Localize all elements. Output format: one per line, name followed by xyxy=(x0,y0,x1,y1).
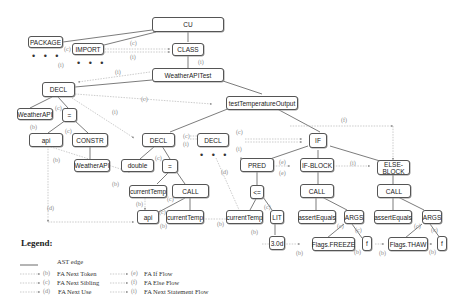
legend-key-d: (d) xyxy=(43,288,50,294)
node-f: f xyxy=(362,236,372,251)
node-currenttemp: currentTemp xyxy=(129,185,167,198)
node-decl: DECL xyxy=(142,133,175,147)
node-assertequals: assertEquals xyxy=(374,210,412,224)
else-line-1: ELSE- xyxy=(384,161,403,168)
legend-key-i: (i) xyxy=(131,288,137,294)
node-assign: = xyxy=(162,159,178,173)
edge-label-b: (b) xyxy=(160,223,167,229)
node-if: IF xyxy=(309,133,327,148)
node-call: CALL xyxy=(172,184,209,198)
legend-key-c: (c) xyxy=(43,279,50,285)
edge-label-d: (d) xyxy=(47,205,54,211)
node-import: IMPORT xyxy=(72,43,104,55)
edge-label-b: (b) xyxy=(251,229,258,235)
node-decl: DECL xyxy=(42,82,75,97)
edge-label-c: (c) xyxy=(431,227,438,233)
edge-label-i: (i) xyxy=(236,146,242,152)
edge-label-c: (c) xyxy=(264,204,271,210)
edge-label-c: (c) xyxy=(65,128,72,134)
edge-label-d: (d) xyxy=(221,169,228,175)
node-api: api xyxy=(137,210,159,224)
edge-label-c: (c) xyxy=(130,40,137,46)
edge-label-b: (b) xyxy=(53,157,60,163)
node-constr: CONSTR xyxy=(72,133,108,147)
edge-label-c: (c) xyxy=(355,227,362,233)
node-call: CALL xyxy=(377,184,411,198)
edge-label-c: (c) xyxy=(167,196,174,202)
ellipsis: • • • xyxy=(200,150,229,160)
edge-label-b: (b) xyxy=(217,221,224,227)
else-line-2: BLOCK xyxy=(382,168,404,175)
edge-label-i: (i) xyxy=(198,59,204,65)
node-args: ARGS xyxy=(422,210,442,224)
node-double: double xyxy=(121,159,154,172)
node-cu: CU xyxy=(152,17,224,32)
node-weatherapi: WeatherAPI xyxy=(17,108,53,120)
edge-label-i: (i) xyxy=(130,54,136,60)
edge-label-b: (b) xyxy=(429,249,436,255)
legend-key-e: (e) xyxy=(131,270,138,276)
edge-label-i: (i) xyxy=(350,160,356,166)
edge-label-e: (e) xyxy=(279,159,286,165)
edge-label-i: (i) xyxy=(112,109,118,115)
edge-label-c: (c) xyxy=(55,105,62,111)
edge-label-c: (c) xyxy=(183,133,190,139)
node-currenttemp: currentTemp xyxy=(226,210,263,224)
node-flags-freeze: Flags.FREEZE xyxy=(312,237,355,251)
legend-if-flow: FA If Flow xyxy=(144,270,172,277)
node-testtemperatureoutput: testTemperatureOutput xyxy=(226,96,298,110)
node-currenttemp: currentTemp xyxy=(166,210,204,224)
node-f: f xyxy=(437,236,447,251)
node-package: PACKAGE xyxy=(28,36,63,48)
node-weatherapitest: WeatherAPITest xyxy=(152,68,224,82)
node-else-block: ELSE- BLOCK xyxy=(377,160,410,175)
edge-label-c: (c) xyxy=(337,223,344,229)
node-if-block: IF-BLOCK xyxy=(300,158,334,172)
node-call: CALL xyxy=(300,184,334,198)
ellipsis: • • • xyxy=(32,51,61,61)
legend-next-sibling: FA Next Sibling xyxy=(57,279,99,286)
node-decl: DECL xyxy=(197,133,229,147)
node-weatherapi: WeatherAPI xyxy=(74,159,110,172)
legend-key-f: (f) xyxy=(131,279,137,285)
edge-label-c: (c) xyxy=(64,46,71,52)
node-less-equal: <= xyxy=(250,185,264,199)
node-pred: PRED xyxy=(240,158,274,172)
node-api: api xyxy=(29,133,63,147)
legend-swatches xyxy=(20,238,260,298)
ellipsis: • • • xyxy=(77,58,106,68)
edge-label-f: (f) xyxy=(341,117,347,123)
edge-label-c: (c) xyxy=(141,96,148,102)
edge-label-i: (i) xyxy=(115,69,121,75)
edge-label-b: (b) xyxy=(379,250,386,256)
edge-label-c: (c) xyxy=(414,223,421,229)
edge-label-c: (c) xyxy=(236,129,243,135)
legend-next-statement-flow: FA Next Statement Flow xyxy=(144,288,208,295)
node-flags-thaw: Flags.THAW xyxy=(388,237,428,251)
edge-label-e: (e) xyxy=(279,170,286,176)
legend: Legend: AST edge (b) FA Next Token (c) F… xyxy=(20,238,260,298)
node-value: 3.0d xyxy=(269,236,285,250)
edge-label-c: (c) xyxy=(155,155,162,161)
node-assign: = xyxy=(62,108,77,122)
legend-next-use: FA Next Use xyxy=(58,288,91,295)
ast-diagram: CU PACKAGE • • • IMPORT • • • CLASS Weat… xyxy=(0,0,469,306)
edge-label-i: (i) xyxy=(58,62,64,68)
node-lit: LIT xyxy=(270,210,284,224)
legend-ast-edge: AST edge xyxy=(57,258,83,265)
node-args: ARGS xyxy=(344,210,364,224)
edge-label-i: (i) xyxy=(183,141,189,147)
node-assertequals: assertEquals xyxy=(298,210,336,224)
edge-label-b: (b) xyxy=(354,249,361,255)
edge-label-b: (b) xyxy=(112,181,119,187)
edge-label-c: (c) xyxy=(159,209,166,215)
legend-next-token: FA Next Token xyxy=(57,270,96,277)
node-class: CLASS xyxy=(172,43,204,56)
edge-label-b: (b) xyxy=(296,250,303,256)
legend-else-flow: FA Else Flow xyxy=(144,279,179,286)
legend-key-b: (b) xyxy=(43,270,50,276)
edge-label-b: (b) xyxy=(136,201,143,207)
edge-label-b: (b) xyxy=(30,124,37,130)
